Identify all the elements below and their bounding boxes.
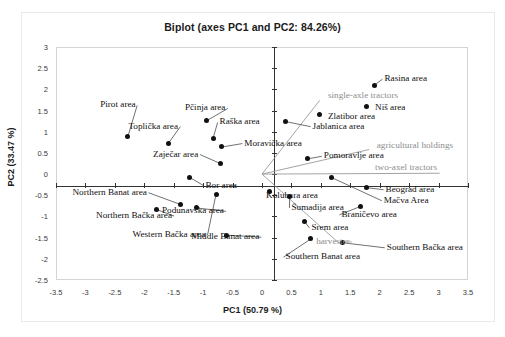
observation-label: Niš area — [375, 103, 405, 112]
observation-label: Pčinja area — [185, 103, 226, 112]
x-tick-mark — [291, 183, 292, 188]
observation-label: Jablanica area — [313, 122, 365, 131]
y-tick-mark — [272, 238, 277, 239]
y-tick-label: 3 — [10, 43, 48, 52]
x-tick-mark — [380, 183, 381, 188]
observation-label: Raška area — [220, 117, 260, 126]
observation-label: Middle Banat area — [191, 232, 259, 241]
data-point — [329, 175, 334, 180]
observation-label: Mačva Area — [384, 196, 429, 205]
variable-label: agricultural holdings — [377, 141, 453, 150]
observation-label: Kolubara area — [266, 191, 318, 200]
x-tick-mark — [262, 183, 263, 188]
observation-label: Braničevo area — [341, 210, 396, 219]
observation-label: Zaječar area — [153, 150, 198, 159]
y-tick-mark — [272, 47, 277, 48]
data-point — [364, 104, 369, 109]
x-tick-mark — [56, 183, 57, 188]
y-axis-line — [274, 47, 275, 280]
y-tick-mark — [272, 174, 277, 175]
x-tick-mark — [174, 183, 175, 188]
x-tick-label: 3.5 — [448, 288, 488, 297]
x-axis-title: PC1 (50.79 %) — [0, 305, 505, 315]
y-tick-label: -2.5 — [10, 276, 48, 285]
observation-label: Rasina area — [384, 74, 427, 83]
biplot-screenshot: Biplot (axes PC1 and PC2: 84.26%) -3.5-3… — [0, 0, 505, 337]
observation-label: Bor area — [205, 181, 236, 190]
y-tick-mark — [272, 111, 277, 112]
observation-label: Northern Bačka area — [96, 211, 172, 220]
y-tick-mark — [272, 280, 277, 281]
y-tick-label: -2 — [10, 255, 48, 264]
variable-label: two-axel tractors — [375, 163, 437, 172]
y-axis-title: PC2 (33.47 %) — [6, 112, 16, 202]
observation-label: Pomoravlje area — [324, 151, 384, 160]
x-tick-mark — [350, 183, 351, 188]
observation-label: Northern Banat area — [72, 188, 146, 197]
y-tick-label: 2.5 — [10, 64, 48, 73]
y-tick-mark — [272, 89, 277, 90]
observation-label: Beograd area — [386, 185, 435, 194]
observation-label: Toplička area — [128, 122, 178, 131]
observation-label: Pirot area — [100, 100, 135, 109]
data-point — [166, 141, 171, 146]
y-tick-label: -1 — [10, 212, 48, 221]
x-tick-mark — [203, 183, 204, 188]
variable-label: harvester — [316, 237, 350, 246]
observation-label: Podunavska area — [162, 206, 224, 215]
data-point — [302, 219, 307, 224]
data-point — [214, 192, 219, 197]
data-point — [372, 83, 377, 88]
data-point — [211, 136, 216, 141]
observation-label: Southern Banat area — [286, 252, 361, 261]
y-tick-label: -1.5 — [10, 234, 48, 243]
chart-title: Biplot (axes PC1 and PC2: 84.26%) — [0, 21, 505, 33]
y-tick-mark — [272, 132, 277, 133]
x-tick-mark — [468, 183, 469, 188]
x-tick-mark — [321, 183, 322, 188]
observation-label: Southern Bačka area — [387, 243, 463, 252]
observation-label: Zlatibor area — [328, 112, 375, 121]
observation-label: Srem area — [311, 223, 348, 232]
observation-label: Moravička area — [244, 139, 301, 148]
observation-label: Šumadija area — [291, 203, 343, 212]
y-tick-mark — [272, 153, 277, 154]
y-tick-mark — [272, 216, 277, 217]
x-tick-mark — [439, 183, 440, 188]
data-point — [187, 175, 192, 180]
y-tick-mark — [272, 259, 277, 260]
data-point — [317, 112, 322, 117]
variable-label: single-axle tractors — [328, 91, 398, 100]
y-tick-mark — [272, 68, 277, 69]
data-point — [218, 161, 223, 166]
y-tick-label: 2 — [10, 85, 48, 94]
